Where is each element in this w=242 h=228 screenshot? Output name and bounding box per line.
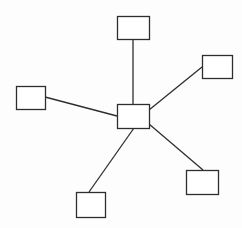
node-left-box: [17, 87, 46, 110]
node-bottom-right-box: [187, 171, 219, 195]
node-bottom-left-box: [77, 193, 106, 218]
hub-box: [118, 105, 150, 129]
star-topology-diagram: [0, 0, 242, 228]
node-top-box: [118, 17, 150, 40]
edge-hub-to-node-bottom-right: [149, 124, 203, 170]
edge-hub-to-node-bottom-left: [89, 128, 134, 192]
diagram-svg: [0, 0, 242, 228]
node-top-right-box: [203, 56, 233, 79]
edge-hub-to-node-left: [45, 97, 117, 116]
boxes-group: [17, 17, 233, 218]
edge-hub-to-node-top-right: [149, 67, 202, 110]
